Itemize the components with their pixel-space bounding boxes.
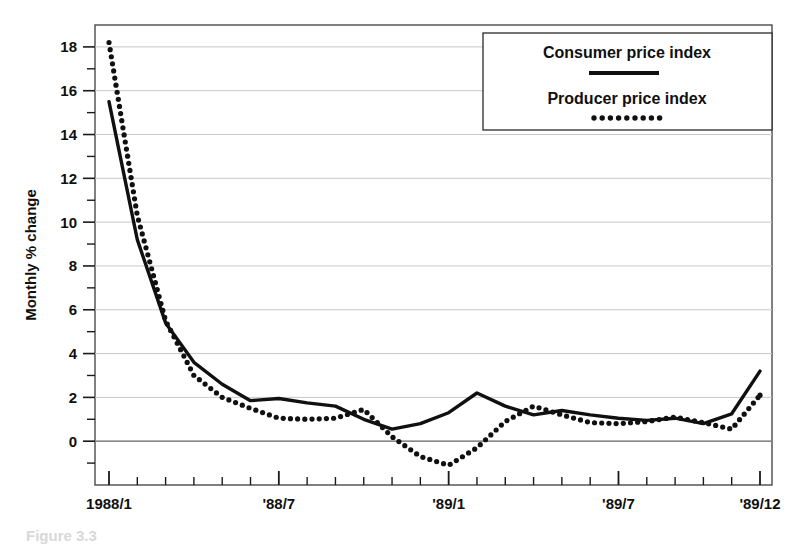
series-dot xyxy=(720,424,725,429)
series-dot xyxy=(564,414,569,419)
series-dot xyxy=(130,182,135,187)
series-dot xyxy=(149,266,154,271)
series-dot xyxy=(267,412,272,417)
series-dot xyxy=(108,47,113,52)
series-dot xyxy=(543,407,548,412)
series-dot xyxy=(240,403,245,408)
series-dot xyxy=(160,308,165,313)
series-dot xyxy=(324,416,329,421)
series-dot xyxy=(331,416,336,421)
series-dot xyxy=(122,132,127,137)
series-dot xyxy=(126,161,131,166)
series-dot xyxy=(402,443,407,448)
series-dot xyxy=(478,442,483,447)
y-axis-tick-label: 16 xyxy=(60,82,77,99)
series-dot xyxy=(585,419,590,424)
chart-legend: Consumer price index Producer price inde… xyxy=(483,33,772,130)
series-dot xyxy=(742,412,747,417)
series-dot xyxy=(628,420,633,425)
series-dot xyxy=(359,408,364,413)
series-dot xyxy=(175,341,180,346)
series-dot xyxy=(153,280,158,285)
series-dot xyxy=(599,420,604,425)
series-dot xyxy=(375,420,380,425)
series-dot xyxy=(128,175,133,180)
series-dot xyxy=(338,414,343,419)
series-dot xyxy=(550,409,555,414)
series-dot xyxy=(757,393,762,398)
legend-marker-dotted-line xyxy=(591,115,662,120)
series-dot xyxy=(483,437,488,442)
series-dot xyxy=(642,419,647,424)
series-dot xyxy=(385,430,390,435)
y-axis-tick-label: 0 xyxy=(69,433,77,450)
x-axis-tick-label: '89/7 xyxy=(602,495,635,512)
y-axis-tick-label: 10 xyxy=(60,214,77,231)
series-dot xyxy=(147,259,152,264)
series-dot xyxy=(649,418,654,423)
series-dot xyxy=(380,425,385,430)
x-axis-tick-label: '89/12 xyxy=(739,495,780,512)
series-dot xyxy=(713,423,718,428)
y-axis-tick-label: 4 xyxy=(69,345,78,362)
series-dot xyxy=(138,224,143,229)
chart-svg: 024681012141618 1988/1'88/7'89/1'89/7'89… xyxy=(0,0,809,545)
series-dot xyxy=(488,432,493,437)
series-dot xyxy=(155,287,160,292)
series-dot xyxy=(124,147,129,152)
series-dot xyxy=(197,377,202,382)
legend-dot xyxy=(608,115,613,120)
legend-dot xyxy=(616,115,621,120)
series-dot xyxy=(132,196,137,201)
y-axis-title: Monthly % change xyxy=(22,189,39,321)
series-dot xyxy=(202,382,207,387)
series-dot xyxy=(692,418,697,423)
series-dot xyxy=(233,400,238,405)
series-dot xyxy=(448,462,453,467)
legend-label-producer: Producer price index xyxy=(547,90,706,107)
series-dot xyxy=(295,416,300,421)
series-dot xyxy=(732,423,737,428)
series-dot xyxy=(119,118,124,123)
y-axis: 024681012141618 xyxy=(60,38,95,463)
series-dot xyxy=(671,415,676,420)
series-dot xyxy=(188,366,193,371)
series-dot xyxy=(460,454,465,459)
series-dot xyxy=(390,435,395,440)
series-dot xyxy=(220,395,225,400)
series-dot xyxy=(168,328,173,333)
series-dot xyxy=(158,301,163,306)
series-dot xyxy=(517,411,522,416)
series-dot xyxy=(454,458,459,463)
series-dot xyxy=(364,410,369,415)
series-dot xyxy=(281,416,286,421)
legend-dot xyxy=(657,115,662,120)
series-dot xyxy=(253,408,258,413)
series-dot xyxy=(635,420,640,425)
series-dot xyxy=(127,168,132,173)
series-dot xyxy=(185,360,190,365)
series-dot xyxy=(656,417,661,422)
series-dot xyxy=(536,405,541,410)
series-dot xyxy=(226,397,231,402)
series-dot xyxy=(309,416,314,421)
series-dot xyxy=(134,210,139,215)
series-dot xyxy=(118,111,123,116)
series-dot xyxy=(427,457,432,462)
series-dot xyxy=(746,406,751,411)
series-dot xyxy=(699,420,704,425)
legend-dot xyxy=(600,115,605,120)
series-dot xyxy=(408,447,413,452)
series-dot xyxy=(511,415,516,420)
y-axis-tick-label: 2 xyxy=(69,389,77,406)
series-dot xyxy=(678,416,683,421)
series-dot xyxy=(727,426,732,431)
series-dot xyxy=(706,421,711,426)
series-dot xyxy=(131,189,136,194)
series-dot xyxy=(120,125,125,130)
series-dot xyxy=(396,439,401,444)
y-axis-tick-label: 14 xyxy=(60,126,77,143)
series-dot xyxy=(133,203,138,208)
series-dot xyxy=(117,104,122,109)
legend-dot xyxy=(649,115,654,120)
